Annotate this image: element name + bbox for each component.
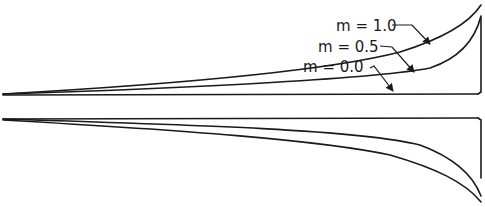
curve-m10-lower xyxy=(3,120,481,202)
curve-m05-upper xyxy=(3,16,481,94)
curve-m00-upper xyxy=(3,94,478,95)
curve-m05-lower xyxy=(3,119,481,196)
right-edge-upper xyxy=(478,18,481,94)
diagram-canvas: m = 1.0 m = 0.5 m = 0.0 xyxy=(0,0,485,207)
label-m05-text: m = 0.5 xyxy=(318,38,379,56)
leader-m00 xyxy=(370,66,393,91)
baseline-lower xyxy=(3,118,478,119)
right-edge-lower xyxy=(478,118,481,178)
upper-profile xyxy=(3,5,481,95)
leader-m10 xyxy=(392,25,430,44)
label-m00-text: m = 0.0 xyxy=(303,58,364,76)
curve-m10-upper xyxy=(3,5,481,94)
label-m10-text: m = 1.0 xyxy=(336,17,397,35)
lower-profile xyxy=(3,118,481,202)
